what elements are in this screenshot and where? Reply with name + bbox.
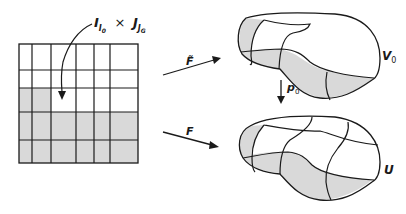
shaded-cell-row3 <box>19 88 51 112</box>
shaded-rows-4-5 <box>19 112 138 163</box>
u-label: U <box>384 163 394 177</box>
diagram-canvas: II0 × JJG F̃ F p0 V0 <box>0 0 406 214</box>
f-label: F <box>186 125 194 138</box>
v0-label: V0 <box>382 49 396 65</box>
index-grid <box>19 44 138 163</box>
projection-arrow <box>277 80 285 104</box>
grid-label: II0 × JJG <box>94 15 146 36</box>
top-set-v0 <box>238 13 380 100</box>
f-tilde-label: F̃ <box>186 55 194 68</box>
bottom-set-u <box>239 116 380 200</box>
